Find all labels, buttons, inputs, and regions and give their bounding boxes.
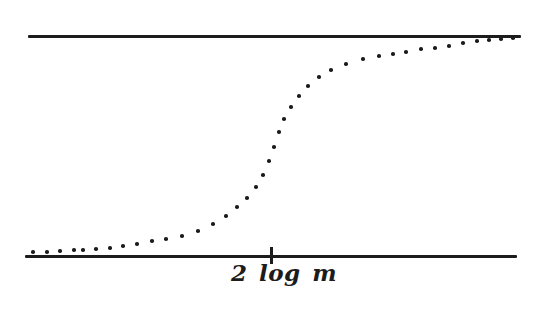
curve-dot xyxy=(81,248,85,252)
curve-dot xyxy=(499,37,503,41)
curve-dot xyxy=(135,242,139,246)
curve-dot xyxy=(317,75,321,79)
curve-dot xyxy=(277,130,281,134)
curve-dot xyxy=(45,250,49,254)
curve-dot xyxy=(235,205,239,209)
curve-dot xyxy=(164,237,168,241)
curve-dot xyxy=(180,234,184,238)
curve-dot xyxy=(329,68,333,72)
curve-dot xyxy=(121,244,125,248)
curve-dot xyxy=(31,250,35,254)
curve-dot xyxy=(487,38,491,42)
curve-dot xyxy=(511,36,515,40)
curve-dot xyxy=(224,214,228,218)
curve-dot xyxy=(391,52,395,56)
curve-dot xyxy=(58,249,62,253)
curve-dot xyxy=(377,54,381,58)
curve-dot xyxy=(306,84,310,88)
curve-dot xyxy=(196,229,200,233)
curve-dot xyxy=(447,44,451,48)
curve-dot xyxy=(475,39,479,43)
figure: 2 log m xyxy=(0,0,543,311)
curve-dot xyxy=(72,248,76,252)
curve-dot xyxy=(433,46,437,50)
curve-dot xyxy=(289,105,293,109)
curve-dot xyxy=(419,47,423,51)
curve-dot xyxy=(267,159,271,163)
curve-dot xyxy=(108,246,112,250)
curve-dot xyxy=(404,50,408,54)
curve-dot xyxy=(150,239,154,243)
curve-dot xyxy=(282,117,286,121)
curve-dot xyxy=(254,185,258,189)
curve-dot xyxy=(461,41,465,45)
curve-dot xyxy=(344,62,348,66)
curve-dot xyxy=(211,222,215,226)
curve-dot xyxy=(94,247,98,251)
x-tick-label: 2 log m xyxy=(231,260,337,285)
curve-dot xyxy=(245,196,249,200)
curve-dot xyxy=(361,57,365,61)
curve-dot xyxy=(272,145,276,149)
curve-dot xyxy=(297,94,301,98)
curve-dot xyxy=(261,173,265,177)
